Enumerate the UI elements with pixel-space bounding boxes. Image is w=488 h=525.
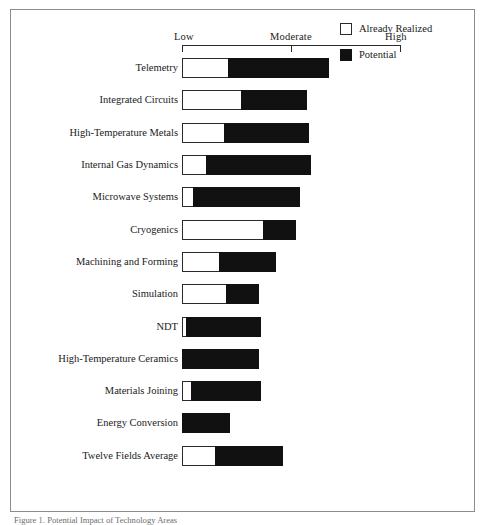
- legend-item-already-realized: Already Realized: [340, 22, 465, 35]
- chart-row-label: Materials Joining: [8, 385, 178, 397]
- chart-bar: [182, 220, 296, 240]
- bar-segment-already-realized: [182, 187, 193, 207]
- chart-bar: [182, 381, 261, 401]
- bar-segment-potential: [186, 317, 260, 337]
- chart-row: Twelve Fields Average: [11, 440, 476, 472]
- white-square-icon: [340, 23, 352, 35]
- chart-bar-rows: TelemetryIntegrated CircuitsHigh-Tempera…: [11, 52, 476, 472]
- chart-bar: [182, 123, 309, 143]
- chart-row: High-Temperature Metals: [11, 117, 476, 149]
- chart-bar: [182, 187, 300, 207]
- chart-bar: [182, 90, 307, 110]
- legend-label-already-realized: Already Realized: [359, 23, 432, 34]
- bar-segment-already-realized: [182, 220, 263, 240]
- bar-segment-already-realized: [182, 284, 226, 304]
- chart-row-label: High-Temperature Ceramics: [8, 353, 178, 365]
- bar-segment-potential: [182, 349, 259, 369]
- chart-bar: [182, 349, 259, 369]
- chart-row-label: Simulation: [8, 288, 178, 300]
- chart-row: Telemetry: [11, 52, 476, 84]
- chart-row-label: Twelve Fields Average: [8, 450, 178, 462]
- chart-row: NDT: [11, 310, 476, 342]
- bar-segment-potential: [206, 155, 311, 175]
- chart-bar: [182, 317, 261, 337]
- bar-segment-already-realized: [182, 90, 241, 110]
- chart-row-label: NDT: [8, 321, 178, 333]
- chart-row-label: Internal Gas Dynamics: [8, 159, 178, 171]
- chart-bar: [182, 284, 259, 304]
- chart-row: Internal Gas Dynamics: [11, 149, 476, 181]
- chart-row: Cryogenics: [11, 213, 476, 245]
- chart-row-label: Integrated Circuits: [8, 94, 178, 106]
- bar-segment-potential: [228, 58, 329, 78]
- bar-segment-potential: [215, 446, 283, 466]
- chart-row-label: Energy Conversion: [8, 417, 178, 429]
- bar-segment-potential: [263, 220, 296, 240]
- bar-segment-already-realized: [182, 155, 206, 175]
- bar-segment-already-realized: [182, 123, 224, 143]
- axis-tick-label-moderate: Moderate: [270, 31, 312, 42]
- bar-segment-already-realized: [182, 252, 219, 272]
- chart-row: High-Temperature Ceramics: [11, 343, 476, 375]
- bar-segment-already-realized: [182, 446, 215, 466]
- chart-row-label: Machining and Forming: [8, 256, 178, 268]
- chart-row: Machining and Forming: [11, 246, 476, 278]
- bar-segment-already-realized: [182, 58, 228, 78]
- bar-segment-potential: [226, 284, 259, 304]
- chart-bar: [182, 58, 329, 78]
- chart-bar: [182, 252, 276, 272]
- axis-tick-label-low: Low: [174, 31, 194, 42]
- bar-segment-potential: [224, 123, 309, 143]
- chart-row: Microwave Systems: [11, 181, 476, 213]
- chart-row: Integrated Circuits: [11, 84, 476, 116]
- bar-segment-already-realized: [182, 381, 191, 401]
- chart-plot-area: Low Moderate High Already Realized Poten…: [11, 10, 476, 513]
- bar-segment-potential: [219, 252, 276, 272]
- chart-row-label: Telemetry: [8, 62, 178, 74]
- chart-bar: [182, 413, 230, 433]
- chart-row: Simulation: [11, 278, 476, 310]
- chart-bar: [182, 446, 283, 466]
- bar-segment-potential: [191, 381, 261, 401]
- chart-row-label: High-Temperature Metals: [8, 127, 178, 139]
- bar-segment-potential: [182, 413, 230, 433]
- chart-row: Energy Conversion: [11, 407, 476, 439]
- chart-row-label: Microwave Systems: [8, 191, 178, 203]
- chart-row-label: Cryogenics: [8, 224, 178, 236]
- bar-segment-potential: [241, 90, 307, 110]
- figure-caption: Figure 1. Potential Impact of Technology…: [14, 515, 484, 525]
- bar-segment-potential: [193, 187, 300, 207]
- chart-bar: [182, 155, 311, 175]
- figure-frame: Low Moderate High Already Realized Poten…: [10, 9, 475, 512]
- chart-row: Materials Joining: [11, 375, 476, 407]
